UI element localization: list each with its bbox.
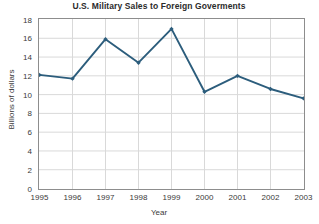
chart-container: U.S. Military Sales to Foreign Goverment… <box>0 0 318 224</box>
x-tick-label: 1999 <box>152 193 192 202</box>
x-tick-label: 2002 <box>251 193 291 202</box>
x-tick-label: 1996 <box>53 193 93 202</box>
y-tick-label: 16 <box>2 34 32 43</box>
x-tick-label: 1998 <box>119 193 159 202</box>
x-tick-label: 2000 <box>185 193 225 202</box>
line-chart-svg <box>39 19 304 189</box>
y-tick-label: 2 <box>2 165 32 174</box>
y-tick-label: 18 <box>2 15 32 24</box>
x-axis-label: Year <box>0 208 318 217</box>
y-axis-label: Billions of dollars <box>7 45 16 155</box>
chart-title: U.S. Military Sales to Foreign Goverment… <box>0 1 318 11</box>
y-tick-label: 0 <box>2 184 32 193</box>
x-tick-label: 1995 <box>20 193 60 202</box>
x-tick-label: 2003 <box>284 193 319 202</box>
x-tick-label: 2001 <box>218 193 258 202</box>
x-tick-label: 1997 <box>86 193 126 202</box>
plot-area <box>38 18 305 190</box>
